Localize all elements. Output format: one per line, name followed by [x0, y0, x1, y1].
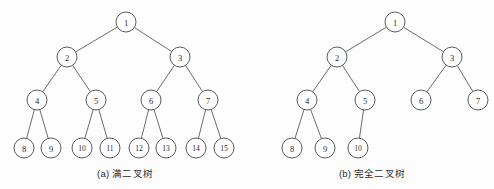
tree-node-label: 3	[450, 53, 454, 63]
tree-node-label: 11	[106, 144, 114, 153]
tree-node-label: 8	[22, 144, 26, 154]
tree-edge	[85, 110, 93, 139]
tree-edge	[346, 27, 387, 52]
tree-node: 13	[156, 138, 176, 158]
tree-edge	[211, 109, 221, 138]
tree-edges-layer	[27, 27, 473, 139]
tree-node: 12	[129, 138, 149, 158]
tree-node: 2	[57, 47, 77, 67]
tree-node-label: 8	[290, 144, 294, 154]
tree-node-label: 2	[335, 53, 339, 63]
tree-node-label: 3	[178, 53, 182, 63]
tree-node: 10	[72, 138, 92, 158]
tree-node-label: 10	[354, 144, 362, 153]
tree-edge	[427, 65, 446, 92]
tree-edge	[40, 110, 48, 139]
tree-edge	[141, 110, 148, 139]
tree-node: 9	[315, 138, 335, 158]
subfigure-a-caption: (a) 满二叉树	[0, 166, 250, 180]
tree-node: 5	[86, 90, 106, 110]
tree-node: 8	[14, 138, 34, 158]
tree-node: 1	[116, 12, 136, 32]
binary-tree-figure: 12345678910111213141512345678910 (a) 满二叉…	[0, 0, 494, 189]
tree-edge	[198, 110, 205, 139]
tree-edge	[76, 27, 118, 52]
subfigure-b-caption: (b) 完全二叉树	[250, 166, 494, 180]
tree-node: 6	[411, 90, 431, 110]
tree-node-label: 2	[65, 53, 69, 63]
tree-node-label: 9	[49, 144, 53, 154]
tree-edge	[73, 65, 91, 91]
tree-node: 5	[355, 90, 375, 110]
tree-node-label: 7	[206, 96, 210, 106]
tree-node-label: 14	[192, 144, 200, 153]
tree-node: 2	[327, 47, 347, 67]
tree-node: 4	[27, 90, 47, 110]
tree-node-label: 15	[220, 144, 228, 153]
tree-node-label: 9	[323, 144, 327, 154]
tree-edge	[359, 110, 363, 138]
tree-node-label: 7	[476, 96, 480, 106]
tree-edge	[157, 65, 175, 91]
tree-node-label: 5	[363, 96, 367, 106]
tree-node: 8	[282, 138, 302, 158]
tree-node: 9	[41, 138, 61, 158]
tree-node: 7	[468, 90, 488, 110]
tree-node-label: 6	[149, 96, 153, 106]
tree-node: 10	[348, 138, 368, 158]
tree-edge	[342, 65, 359, 91]
tree-node-label: 5	[94, 96, 98, 106]
tree-node: 3	[170, 47, 190, 67]
tree-node-label: 10	[78, 144, 86, 153]
tree-node: 14	[186, 138, 206, 158]
tree-diagram-canvas: 12345678910111213141512345678910	[0, 0, 494, 189]
tree-edge	[457, 66, 473, 92]
tree-node: 1	[385, 12, 405, 32]
tree-edge	[134, 27, 171, 51]
tree-node: 7	[198, 90, 218, 110]
tree-edge	[154, 110, 163, 139]
tree-node: 6	[141, 90, 161, 110]
tree-edge	[185, 65, 202, 91]
tree-node-label: 6	[419, 96, 423, 106]
tree-edge	[99, 110, 107, 139]
tree-node: 15	[214, 138, 234, 158]
tree-edge	[311, 109, 322, 138]
tree-node-label: 12	[135, 144, 143, 153]
tree-node-label: 1	[393, 18, 397, 28]
tree-node-label: 1	[124, 18, 128, 28]
tree-node-label: 13	[162, 144, 170, 153]
tree-edge	[404, 27, 444, 52]
tree-edge	[27, 110, 35, 139]
tree-node: 4	[297, 90, 317, 110]
tree-edge	[295, 110, 304, 139]
tree-edge	[43, 65, 62, 92]
tree-node: 11	[100, 138, 120, 158]
tree-edge	[313, 65, 332, 92]
tree-node: 3	[442, 47, 462, 67]
